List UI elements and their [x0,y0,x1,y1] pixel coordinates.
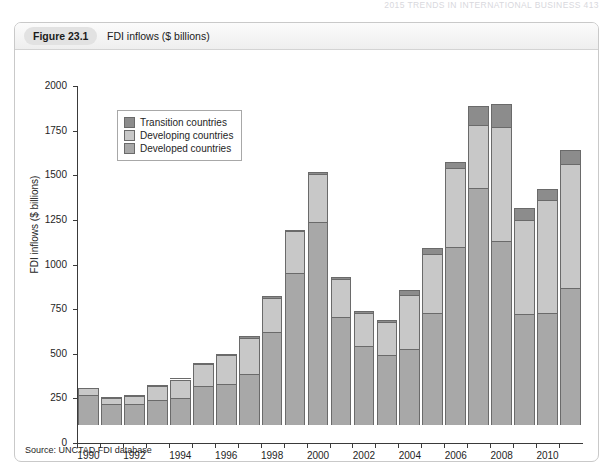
bar-segment-transition [124,395,145,396]
bar-segment-developing [514,220,535,315]
bar-segment-developing [560,164,581,287]
bar-segment-transition [422,248,443,253]
bar-segment-transition [331,277,352,279]
bar-segment-developed [308,222,329,425]
bar-segment-developing [491,127,512,241]
x-tick-mark [192,444,193,448]
bar-segment-transition [491,104,512,127]
bar-segment-transition [285,230,306,232]
legend-item-transition: Transition countries [124,116,233,129]
legend-label: Transition countries [140,117,227,128]
bar-segment-developed [514,314,535,425]
figure-caption: FDI inflows ($ billions) [107,27,210,45]
page-running-header: 2015 TRENDS IN INTERNATIONAL BUSINESS 41… [0,0,613,16]
bar-segment-developing [537,200,558,313]
bar-segment-developing [78,388,99,394]
bar-segment-developing [239,338,260,374]
bar-1990 [78,68,99,425]
x-tick-mark [536,444,537,448]
bar-segment-transition [308,172,329,174]
bar-segment-developed [422,313,443,425]
legend-swatch-icon [124,117,135,128]
bar-segment-developing [308,174,329,221]
bar-segment-transition [239,336,260,338]
x-tick-mark [467,444,468,448]
bar-2008 [491,68,512,425]
bar-2006 [445,68,466,425]
bar-segment-developed [147,400,168,425]
bar-segment-developed [445,247,466,426]
bar-segment-developing [170,380,191,399]
x-tick-label: 2010 [528,451,568,461]
bar-segment-developed [468,188,489,425]
x-tick-label: 2004 [390,451,430,461]
bar-segment-developed [216,384,237,425]
chart-plot-area: FDI inflows ($ billions) 025050075010001… [15,49,598,461]
bar-segment-transition [445,162,466,168]
bar-segment-developed [193,386,214,425]
legend-swatch-icon [124,143,135,154]
bar-2011 [560,68,581,425]
x-tick-mark [421,444,422,448]
bar-segment-developing [331,279,352,317]
bar-segment-developing [216,355,237,384]
bar-segment-developed [124,404,145,425]
x-tick-label: 2006 [436,451,476,461]
bar-2004 [399,68,420,425]
bar-segment-developed [354,346,375,425]
bar-segment-developing [468,125,489,187]
bar-segment-transition [262,296,283,298]
bar-segment-developed [377,355,398,425]
x-tick-mark [307,444,308,448]
x-tick-mark [490,444,491,448]
legend-swatch-icon [124,130,135,141]
bar-segment-transition [170,378,191,379]
x-tick-mark [284,444,285,448]
bar-segment-developing [354,313,375,345]
bar-segment-transition [537,189,558,201]
bar-segment-developing [399,295,420,349]
bar-group [15,49,598,443]
bar-segment-developed [491,241,512,425]
x-tick-mark [215,444,216,448]
x-tick-label: 1998 [252,451,292,461]
bar-segment-developed [101,404,122,425]
bar-2009 [514,68,535,425]
bar-segment-developed [262,332,283,425]
x-tick-mark [330,444,331,448]
x-tick-mark [261,444,262,448]
bar-segment-developing [285,231,306,273]
bar-segment-transition [147,385,168,386]
figure-number-badge: Figure 23.1 [24,27,97,45]
x-tick-mark [559,444,560,448]
bar-segment-transition [216,354,237,356]
bar-segment-transition [101,397,122,398]
x-tick-mark [375,444,376,448]
x-tick-label: 2000 [298,451,338,461]
bar-segment-transition [514,208,535,220]
bar-2003 [377,68,398,425]
bar-segment-developed [170,398,191,425]
bar-segment-developing [124,396,145,404]
bar-segment-developing [101,398,122,404]
bar-2000 [308,68,329,425]
bar-segment-transition [399,290,420,294]
bar-2007 [468,68,489,425]
bar-segment-developing [147,386,168,400]
chart-legend: Transition countriesDeveloping countries… [117,110,242,161]
bar-segment-developing [262,298,283,332]
legend-label: Developing countries [140,130,233,141]
x-tick-label: 1994 [160,451,200,461]
legend-label: Developed countries [140,143,231,154]
bar-segment-developed [239,374,260,425]
bar-segment-transition [193,363,214,364]
x-tick-label: 2008 [482,451,522,461]
x-tick-label: 1996 [206,451,246,461]
source-note: Source: UNCTAD FDI database [25,445,152,455]
bar-segment-transition [354,311,375,313]
x-tick-label: 2002 [344,451,384,461]
figure-card: Figure 23.1 FDI inflows ($ billions) FDI… [14,22,599,462]
x-tick-mark [444,444,445,448]
x-tick-mark [238,444,239,448]
bar-segment-developed [537,313,558,425]
